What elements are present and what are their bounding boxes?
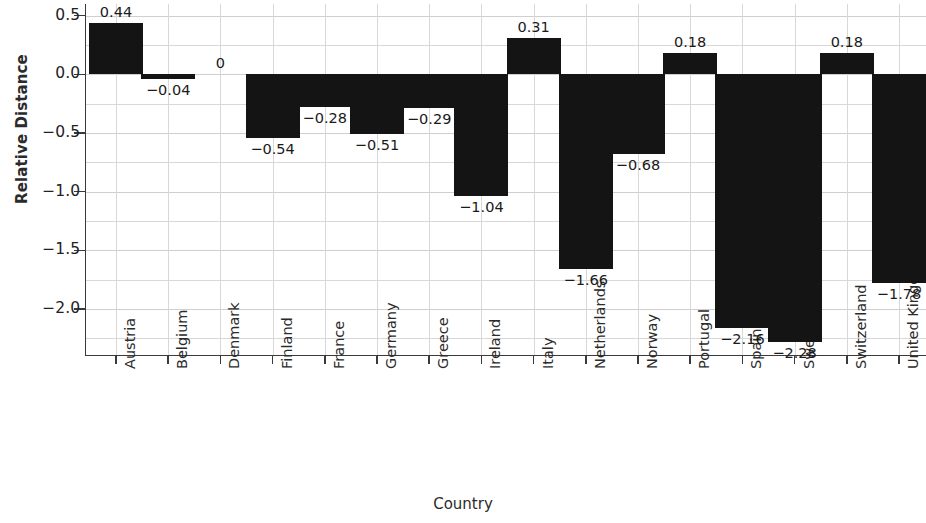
x-axis-tick bbox=[481, 355, 483, 364]
bar bbox=[141, 74, 195, 79]
x-axis-tick bbox=[115, 355, 117, 364]
bar-value-label: −0.28 bbox=[303, 111, 347, 126]
gridline-vertical bbox=[325, 4, 326, 355]
x-axis-tick bbox=[428, 355, 430, 364]
bar bbox=[820, 53, 874, 74]
bar-value-label: −0.29 bbox=[407, 112, 451, 127]
gridline-vertical bbox=[168, 4, 169, 355]
x-axis-tick-label: Belgium bbox=[175, 310, 190, 369]
bar bbox=[507, 38, 561, 74]
gridline-vertical bbox=[273, 4, 274, 355]
y-axis-title: Relative Distance bbox=[13, 29, 31, 229]
x-axis-tick bbox=[272, 355, 274, 364]
x-axis-tick-label: Norway bbox=[645, 314, 660, 369]
gridline-vertical bbox=[429, 4, 430, 355]
bar-value-label: 0 bbox=[216, 56, 225, 71]
bar-value-label: 0.44 bbox=[100, 5, 132, 20]
gridline-horizontal bbox=[86, 16, 926, 17]
bar-value-label: 0.18 bbox=[674, 35, 706, 50]
bar bbox=[611, 74, 665, 154]
bar-value-label: 0.31 bbox=[517, 20, 549, 35]
bar-value-label: 0.18 bbox=[831, 35, 863, 50]
x-axis-tick-label: Netherlands bbox=[593, 281, 608, 369]
bar-value-label: −1.78 bbox=[877, 287, 921, 302]
x-axis-tick bbox=[898, 355, 900, 364]
bar bbox=[559, 74, 613, 269]
x-axis-tick bbox=[220, 355, 222, 364]
y-axis-tick-label: 0.0 bbox=[55, 67, 80, 83]
bar-value-label: −1.04 bbox=[459, 200, 503, 215]
bar bbox=[454, 74, 508, 196]
bar-value-label: −0.54 bbox=[250, 142, 294, 157]
x-axis-tick-label: Germany bbox=[384, 302, 399, 369]
x-axis-tick-label: Finland bbox=[280, 317, 295, 369]
bar-value-label: −0.51 bbox=[355, 138, 399, 153]
x-axis-tick bbox=[167, 355, 169, 364]
bar-value-label: −1.66 bbox=[564, 273, 608, 288]
bar-value-label: −2.28 bbox=[772, 346, 816, 361]
y-axis-tick-label: −1.0 bbox=[42, 184, 80, 200]
x-axis-tick bbox=[585, 355, 587, 364]
x-axis-tick bbox=[324, 355, 326, 364]
bar bbox=[246, 74, 300, 137]
y-axis-tick-label: 0.5 bbox=[55, 8, 80, 24]
x-axis-tick-label: Portugal bbox=[697, 309, 712, 369]
y-axis-tick-label: −0.5 bbox=[42, 125, 80, 141]
x-axis-tick-label: Italy bbox=[541, 338, 556, 369]
x-axis-tick bbox=[689, 355, 691, 364]
x-axis-tick bbox=[846, 355, 848, 364]
bar bbox=[768, 74, 822, 342]
x-axis-tick bbox=[637, 355, 639, 364]
x-axis-tick-label: Switzerland bbox=[854, 284, 869, 369]
bar bbox=[663, 53, 717, 74]
bar bbox=[715, 74, 769, 327]
plot-area: 0.50.0−0.5−1.0−1.5−2.0AustriaBelgiumDenm… bbox=[85, 4, 926, 356]
bar bbox=[872, 74, 926, 283]
gridline-vertical bbox=[638, 4, 639, 355]
x-axis-tick-label: Greece bbox=[436, 317, 451, 369]
bar bbox=[350, 74, 404, 134]
bar bbox=[402, 74, 456, 108]
x-axis-title: Country bbox=[0, 495, 926, 513]
y-axis-tick-label: −2.0 bbox=[42, 301, 80, 317]
x-axis-tick bbox=[533, 355, 535, 364]
x-axis-tick-label: Ireland bbox=[489, 319, 504, 369]
bar-value-label: −0.04 bbox=[146, 83, 190, 98]
gridline-vertical bbox=[377, 4, 378, 355]
bar-value-label: −0.68 bbox=[616, 158, 660, 173]
y-axis-tick-label: −1.5 bbox=[42, 243, 80, 259]
x-axis-tick bbox=[376, 355, 378, 364]
bar-value-label: −2.16 bbox=[720, 332, 764, 347]
bar-chart: Relative Distance 0.50.0−0.5−1.0−1.5−2.0… bbox=[0, 0, 926, 523]
x-axis-tick bbox=[742, 355, 744, 364]
x-axis-tick-label: France bbox=[332, 321, 347, 369]
x-axis-tick-label: Denmark bbox=[228, 302, 243, 369]
x-axis-tick-label: Austria bbox=[123, 318, 138, 369]
bar bbox=[298, 74, 352, 107]
bar bbox=[89, 23, 143, 75]
